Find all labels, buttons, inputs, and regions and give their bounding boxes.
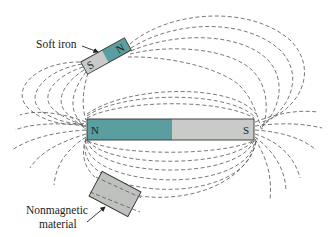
nonmagnetic-pointer-arrow [87, 207, 105, 222]
bar-magnet-south-half [172, 119, 254, 140]
bar-magnet: N S [87, 119, 254, 140]
nonmagnetic-label-line1: Nonmagnetic [26, 204, 88, 217]
magnetic-field-diagram: N S S N Soft iron Nonmagnetic material [0, 0, 330, 237]
bar-magnet-north-label: N [91, 124, 99, 136]
bar-magnet-south-label: S [243, 124, 249, 136]
soft-iron-pointer-arrow [82, 46, 98, 52]
bar-magnet-north-half [87, 119, 172, 140]
nonmagnetic-label-line2: material [39, 218, 77, 230]
soft-iron-label: Soft iron [36, 38, 77, 50]
soft-iron: S N [81, 38, 132, 74]
